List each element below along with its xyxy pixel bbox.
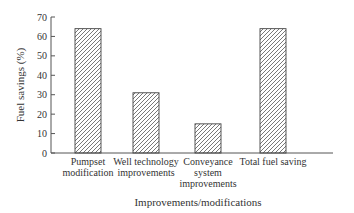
x-tick-label: Pumpset	[71, 156, 106, 167]
y-axis-label: Fuel savings (%)	[14, 47, 27, 122]
bar-chart: 010203040506070 PumpsetmodificationWell …	[0, 0, 354, 213]
bar	[260, 29, 286, 153]
x-tick-label: Total fuel saving	[239, 156, 306, 167]
y-tick-label: 10	[37, 128, 47, 139]
x-axis-label: Improvements/modifications	[134, 196, 261, 208]
x-tick-label: Well technology	[113, 156, 179, 167]
x-tick-label: modification	[62, 167, 113, 178]
x-axis-labels: PumpsetmodificationWell technologyimprov…	[62, 156, 306, 189]
x-tick-label: improvements	[117, 167, 174, 178]
y-tick-label: 60	[37, 31, 47, 42]
bar	[195, 124, 221, 153]
bar	[133, 93, 159, 153]
bar	[75, 29, 101, 153]
bars	[75, 29, 286, 153]
y-tick-label: 50	[37, 50, 47, 61]
x-tick-label: Conveyance	[183, 156, 233, 167]
y-tick-label: 30	[37, 89, 47, 100]
x-tick-label: system	[194, 167, 222, 178]
y-tick-label: 70	[37, 12, 47, 23]
x-tick-label: improvements	[179, 178, 236, 189]
y-tick-label: 20	[37, 109, 47, 120]
y-tick-label: 40	[37, 70, 47, 81]
y-tick-label: 0	[42, 148, 47, 159]
